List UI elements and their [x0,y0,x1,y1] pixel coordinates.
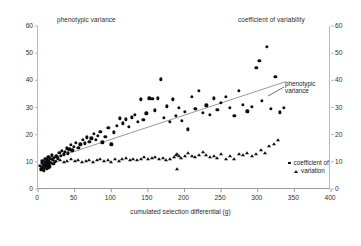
y-left-tick: 20 [11,131,33,138]
y-left-tick: 60 [11,22,33,29]
annotation-line-1: phenotypic [285,80,315,87]
data-point-triangle [228,154,232,157]
scatter-chart: phenotypic variance coefficient of varia… [0,0,361,246]
right-axis-title: coefficient of variability [238,16,305,23]
phenotypic-variance-annotation: phenotypic variance [285,80,315,95]
data-point-triangle [232,157,236,160]
y-right-tick: 50 [335,49,357,56]
y-right-tick: 40 [335,76,357,83]
y-left-tick: 40 [11,76,33,83]
data-point-triangle [183,155,187,158]
y-right-tick: 30 [335,104,357,111]
x-axis-label: cumulated selection differential (g) [0,208,361,215]
legend-item-coefficient: coefficient of [288,159,329,167]
data-point-triangle [219,153,223,156]
data-point-triangle [250,155,254,158]
chart-legend: coefficient of variation [288,159,329,175]
x-tick: 300 [244,194,270,201]
data-point-triangle [272,143,276,146]
square-marker-icon [288,162,291,165]
data-point-triangle [215,156,219,159]
x-tick: 250 [207,194,233,201]
y-left-tick: 50 [11,49,33,56]
annotation-line-2: variance [285,87,315,94]
y-right-tick: 60 [335,22,357,29]
x-tick: 0 [24,194,50,201]
y-right-tick: 20 [335,131,357,138]
left-axis-title: phenotypic variance [57,16,116,23]
plot-area [37,26,330,189]
x-tick: 150 [134,194,160,201]
data-point-triangle [109,160,113,163]
data-point-triangle [259,149,263,152]
data-point-triangle [237,152,241,155]
data-point-triangle [201,150,205,153]
legend-item-variation: variation [294,167,329,175]
data-point-triangle [197,153,201,156]
data-point-triangle [276,138,280,141]
legend-label-line-1: coefficient of [294,159,329,167]
data-point-triangle [224,157,228,160]
y-right-tick: 0 [335,185,357,192]
data-point-triangle [241,154,245,157]
y-right-tick: 10 [335,158,357,165]
data-point-triangle [245,151,249,154]
legend-label-line-2: variation [301,167,325,175]
y-left-tick: 30 [11,104,33,111]
x-tick: 200 [171,194,197,201]
data-point-triangle [175,168,179,171]
triangle-marker-icon [294,170,298,173]
data-point-triangle [263,151,267,154]
y-left-tick: 10 [11,158,33,165]
y-left-tick: 0 [11,185,33,192]
x-tick: 50 [61,194,87,201]
data-point-triangle [267,144,271,147]
x-tick: 400 [317,194,343,201]
x-tick: 100 [97,194,123,201]
data-point-triangle [254,153,258,156]
x-tick: 350 [280,194,306,201]
